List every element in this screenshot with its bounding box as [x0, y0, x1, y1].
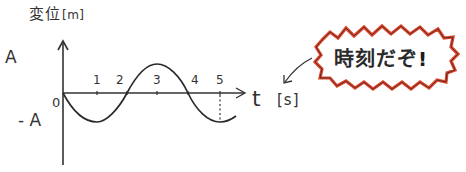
tick-label-3: 3	[153, 73, 161, 87]
t-axis-name: t	[252, 86, 261, 111]
callout-arrow	[285, 58, 312, 82]
callout-text: 時刻だぞ!	[334, 43, 428, 72]
amplitude-negative-label: - A	[18, 110, 41, 130]
y-axis-name: 変位	[29, 5, 60, 23]
tick-label-2: 2	[116, 73, 124, 87]
callout-label: 時刻だぞ	[334, 47, 418, 71]
graph-canvas	[0, 0, 466, 172]
origin-label: 0	[52, 95, 60, 110]
tick-label-5: 5	[216, 73, 224, 87]
tick-label-1: 1	[93, 73, 101, 87]
t-axis-unit: [s]	[277, 91, 300, 109]
y-axis-label: 変位[m]	[29, 2, 85, 23]
tick-label-4: 4	[191, 73, 199, 87]
exclamation-icon: !	[418, 47, 428, 71]
amplitude-positive-label: A	[5, 47, 17, 67]
y-axis-unit: [m]	[62, 8, 85, 22]
